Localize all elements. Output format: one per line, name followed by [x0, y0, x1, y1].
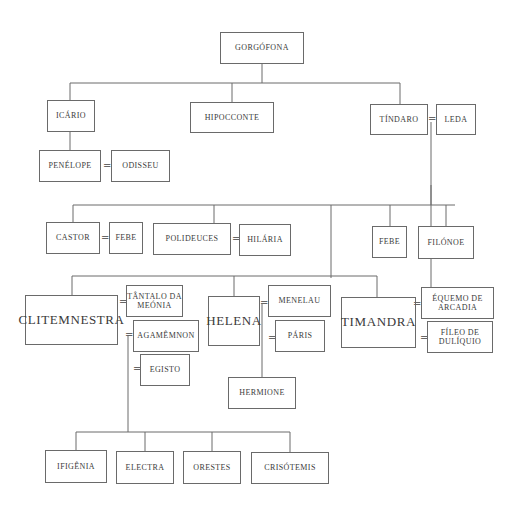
- node-label: FILÓNOE: [427, 238, 464, 247]
- node-febe-daughter: FEBE: [372, 226, 407, 258]
- node-castor: CASTOR: [46, 222, 100, 254]
- node-label: CRISÓTEMIS: [264, 463, 316, 472]
- node-helena: HELENA: [208, 296, 260, 346]
- node-label: ELECTRA: [126, 463, 165, 472]
- node-tindaro: TÍNDARO: [370, 104, 428, 135]
- node-hipocconte: HIPOCCONTE: [190, 102, 274, 133]
- node-gorgofona: GORGÓFONA: [220, 32, 304, 64]
- node-label: EGISTO: [150, 365, 181, 374]
- node-electra: ELECTRA: [116, 451, 174, 484]
- node-agamemnon: AGAMÊMNON: [133, 320, 199, 352]
- node-label: TIMANDRA: [341, 315, 416, 330]
- node-clitemnestra: CLITEMNESTRA: [25, 295, 118, 345]
- node-label: TÂNTALO DA MEÓNIA: [127, 292, 182, 310]
- node-egisto: EGISTO: [140, 354, 190, 386]
- node-label: LEDA: [445, 115, 468, 124]
- node-equemo: ÉQUEMO DE ARCADIA: [421, 287, 494, 319]
- node-label: AGAMÊMNON: [137, 331, 194, 340]
- node-label: GORGÓFONA: [235, 43, 289, 52]
- node-label: FÍLEO DE DULÍQUIO: [428, 328, 492, 346]
- node-label: ORESTES: [193, 463, 230, 472]
- node-label: TÍNDARO: [380, 115, 419, 124]
- node-tantalo: TÂNTALO DA MEÓNIA: [126, 285, 183, 317]
- node-label: IFIGÊNIA: [57, 462, 95, 471]
- node-odisseu: ODISSEU: [111, 150, 170, 182]
- node-label: CASTOR: [56, 233, 90, 242]
- node-label: HIPOCCONTE: [205, 113, 260, 122]
- family-tree-diagram: GORGÓFONA ICÁRIO HIPOCCONTE TÍNDARO = LE…: [0, 0, 522, 514]
- node-timandra: TIMANDRA: [341, 297, 416, 348]
- node-crisotemis: CRISÓTEMIS: [251, 452, 329, 484]
- node-orestes: ORESTES: [183, 451, 241, 484]
- node-leda: LEDA: [436, 104, 476, 135]
- node-hilaria: HILÁRIA: [239, 224, 291, 256]
- node-label: HERMIONE: [239, 388, 284, 397]
- node-label: ODISSEU: [122, 161, 159, 170]
- node-label: MENELAU: [279, 296, 321, 305]
- node-label: ICÁRIO: [56, 111, 86, 120]
- node-label: FEBE: [115, 233, 136, 242]
- node-menelau: MENELAU: [268, 285, 331, 317]
- node-febe-wife-of-castor: FEBE: [109, 222, 143, 254]
- node-label: POLIDEUCES: [166, 234, 219, 243]
- node-label: FEBE: [379, 237, 400, 246]
- node-label: PÁRIS: [288, 331, 313, 340]
- node-polideuces: POLIDEUCES: [153, 223, 231, 255]
- node-label: PENÉLOPE: [48, 161, 91, 170]
- node-label: HELENA: [206, 314, 262, 329]
- node-label: CLITEMNESTRA: [18, 313, 124, 328]
- node-paris: PÁRIS: [275, 320, 325, 352]
- node-penelope: PENÉLOPE: [39, 150, 101, 182]
- node-filonoe: FILÓNOE: [418, 226, 474, 259]
- node-ifigenia: IFIGÊNIA: [45, 450, 107, 483]
- node-hermione: HERMIONE: [228, 377, 296, 409]
- node-fileo: FÍLEO DE DULÍQUIO: [427, 321, 493, 353]
- node-icario: ICÁRIO: [47, 100, 95, 132]
- node-label: HILÁRIA: [247, 235, 283, 244]
- node-label: ÉQUEMO DE ARCADIA: [422, 294, 493, 312]
